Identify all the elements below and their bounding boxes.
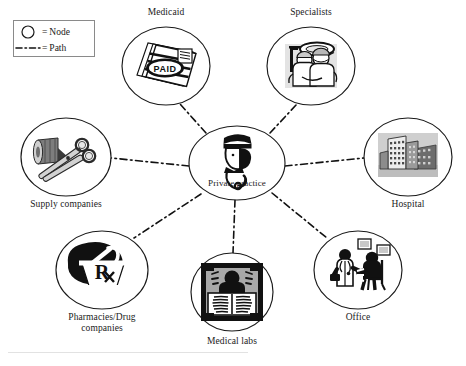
xray-chest-icon: [201, 263, 263, 321]
legend-label-node: Node: [49, 27, 70, 37]
node-label-medical-labs: Medical labs: [182, 336, 282, 347]
dash-dot-line-icon: [14, 43, 42, 53]
legend-equals-node: =: [42, 27, 47, 37]
hospital-building-icon: [378, 133, 438, 177]
node-label-specialists: Specialists: [261, 7, 361, 18]
node-label-private-practice: Private practice: [187, 178, 287, 188]
page-footer-rule: [8, 352, 248, 353]
network-diagram: PAID: [0, 0, 466, 366]
edge-private-practice-medical-labs: [233, 200, 235, 253]
node-label-hospital: Hospital: [358, 199, 458, 210]
node-label-pharmacies-drug-companies: Pharmacies/Drug companies: [42, 312, 162, 333]
node-label-office: Office: [308, 312, 408, 323]
node-label-medicaid: Medicaid: [116, 7, 216, 18]
circle-outline-icon: [14, 24, 42, 40]
edge-private-practice-pharmacies: [134, 194, 201, 238]
node-label-supply-companies: Supply companies: [6, 199, 126, 210]
edge-private-practice-medicaid: [180, 104, 206, 133]
legend-label-path: Path: [49, 43, 66, 53]
legend-equals-path: =: [42, 43, 47, 53]
legend: = Node = Path: [13, 20, 95, 57]
edge-private-practice-specialists: [270, 104, 297, 133]
edge-private-practice-supply: [111, 158, 189, 166]
edge-private-practice-office: [272, 193, 327, 238]
edge-private-practice-hospital: [285, 158, 364, 166]
legend-row-path: = Path: [14, 39, 94, 56]
legend-row-node: = Node: [14, 23, 94, 40]
surgeons-operating-icon: [285, 43, 337, 89]
svg-text:PAID: PAID: [154, 64, 177, 74]
